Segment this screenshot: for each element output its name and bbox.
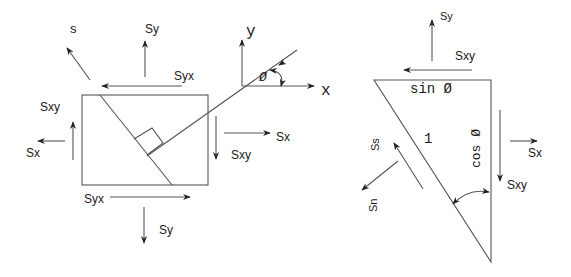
syx-top-label: Syx [174,69,194,83]
syx-bottom-label: Syx [84,192,104,206]
top-side-label: sin Ø [410,81,452,97]
sn-arrow [362,161,398,190]
sy-top-label: Sy [145,22,159,36]
stress-element-rect [82,95,208,185]
sx-right-label-right: Sx [528,146,542,160]
sxy-right-label-right: Sxy [507,178,527,192]
stress-diagram: y x Ø s Sy Syx Sxy Sx Syx Sy Sxy Sx [0,0,571,277]
sn-label: Sn [367,199,379,212]
angle-arc-icon [270,70,282,86]
ss-label: Ss [369,138,381,151]
right-angle-mark [134,128,163,155]
right-side-label: cos Ø [469,129,484,168]
sy-bottom-label: Sy [159,223,173,237]
angle-label: Ø [258,70,268,85]
wedge-triangle [374,80,491,262]
left-figure: y x Ø s Sy Syx Sxy Sx Syx Sy Sxy Sx [26,21,331,243]
sy-top-label-right: Sy [440,10,453,22]
s-normal-label: s [70,21,77,36]
s-normal-arrow [67,48,90,80]
sx-right-label: Sx [276,130,290,144]
hypotenuse-label: 1 [424,131,432,147]
sxy-right-label: Sxy [231,148,251,162]
x-axis-label: x [321,82,331,100]
normal-line [147,50,297,156]
sx-left-label: Sx [26,146,40,160]
angle-arc-right-icon [453,191,489,204]
sxy-top-label-right: Sxy [455,49,475,63]
y-axis-label: y [246,23,256,41]
sxy-left-label: Sxy [40,100,60,114]
right-figure: Sy Sxy sin Ø 1 cos Ø Sx Sxy Ss Sn [362,10,542,262]
